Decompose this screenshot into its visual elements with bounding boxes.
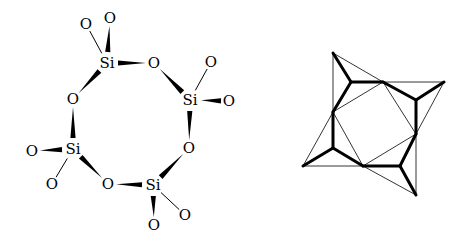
oxygen-atom-label: O <box>148 54 160 72</box>
si-o-bond <box>383 82 416 100</box>
structural-formula-bonds <box>40 26 221 217</box>
silicon-atom-label: Si <box>99 54 114 72</box>
wedge-bond <box>70 107 75 138</box>
single-bond <box>161 193 179 210</box>
si-o-bond <box>416 82 444 100</box>
oxygen-atom-label: O <box>148 216 160 234</box>
oxygen-atom-label: O <box>67 90 79 108</box>
oxygen-atom-label: O <box>179 206 191 224</box>
wedge-bond <box>160 69 185 94</box>
oxygen-atom-label: O <box>183 139 195 157</box>
silicate-ring-diagram: SiSiSiSiOOOOOOOOOOOO <box>0 0 466 247</box>
wedge-bond <box>159 154 184 179</box>
single-bond <box>195 69 207 90</box>
tetrahedra-polyhedral-model <box>303 53 444 195</box>
wedge-bond <box>78 69 101 93</box>
wedge-bond <box>118 60 146 65</box>
wedge-bond <box>187 111 192 140</box>
oxygen-atom-label: O <box>26 142 38 160</box>
oxygen-atom-label: O <box>80 15 92 33</box>
si-o-bond <box>333 53 351 82</box>
wedge-bond <box>201 98 221 103</box>
oxygen-atom-label: O <box>205 53 217 71</box>
si-o-bond <box>303 148 333 166</box>
oxygen-atom-label: O <box>104 9 116 27</box>
single-bond <box>90 31 102 53</box>
si-o-bond <box>333 82 351 112</box>
wedge-bond <box>151 196 156 217</box>
oxygen-atom-label: O <box>102 175 114 193</box>
oxygen-atom-label: O <box>223 92 235 110</box>
si-o-bond <box>333 148 363 166</box>
wedge-bond <box>40 147 62 152</box>
structural-formula-atoms: SiSiSiSiOOOOOOOOOOOO <box>26 9 235 234</box>
wedge-bond <box>105 26 110 52</box>
silicon-atom-label: Si <box>182 91 197 109</box>
wedge-bond <box>79 155 102 178</box>
silicon-atom-label: Si <box>145 176 160 194</box>
wedge-bond <box>116 182 142 187</box>
silicon-atom-label: Si <box>65 140 80 158</box>
oxygen-atom-label: O <box>46 175 58 193</box>
